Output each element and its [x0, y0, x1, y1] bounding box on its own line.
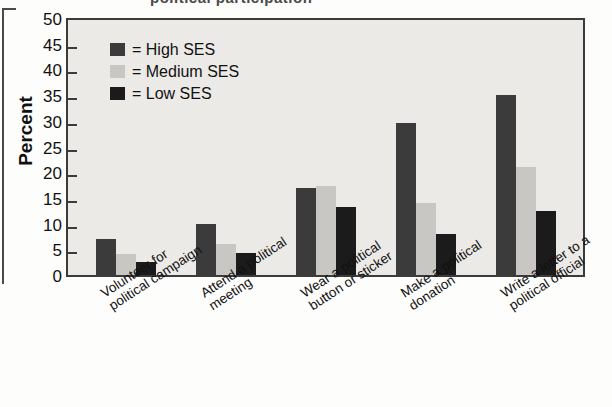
y-tick-mark	[68, 124, 77, 126]
page-border-top	[2, 8, 16, 10]
y-tick-mark	[68, 72, 77, 74]
legend-swatch-high	[110, 43, 125, 56]
legend-label-low: = Low SES	[132, 85, 212, 103]
y-tick-mark	[68, 98, 77, 100]
bar-medium-ses	[516, 167, 536, 275]
y-tick-label: 45	[28, 36, 62, 56]
bar-high-ses	[496, 95, 516, 275]
page-border-left	[2, 8, 4, 284]
y-tick-label: 15	[28, 190, 62, 210]
y-tick-mark	[68, 227, 77, 229]
legend-item-low: = Low SES	[110, 84, 239, 103]
legend-swatch-medium	[110, 65, 125, 78]
bar-chart-figure: political participation Percent 05101520…	[0, 0, 612, 407]
y-tick-label: 35	[28, 87, 62, 107]
legend-label-medium: = Medium SES	[132, 63, 239, 81]
y-tick-label: 20	[28, 164, 62, 184]
cropped-title-text: political participation	[150, 0, 312, 6]
legend-item-high: = High SES	[110, 40, 239, 59]
y-tick-label: 40	[28, 61, 62, 81]
y-tick-label: 50	[28, 10, 62, 30]
bar-high-ses	[96, 239, 116, 275]
legend-item-medium: = Medium SES	[110, 62, 239, 81]
bar-high-ses	[396, 123, 416, 275]
chart-legend: = High SES= Medium SES= Low SES	[110, 40, 239, 106]
y-tick-mark	[68, 252, 77, 254]
y-tick-mark	[68, 150, 77, 152]
y-tick-label: 10	[28, 216, 62, 236]
y-tick-mark	[68, 201, 77, 203]
y-tick-label: 5	[28, 241, 62, 261]
y-tick-label: 30	[28, 113, 62, 133]
legend-swatch-low	[110, 87, 125, 100]
cropped-title-fragment: political participation	[0, 0, 612, 7]
legend-label-high: = High SES	[132, 41, 215, 59]
y-tick-mark	[68, 47, 77, 49]
y-tick-label: 25	[28, 139, 62, 159]
y-tick-label: 0	[28, 267, 62, 287]
y-tick-mark	[68, 175, 77, 177]
y-axis-tick-labels: 05101520253035404550	[22, 18, 62, 277]
bar-medium-ses	[316, 186, 336, 275]
bar-high-ses	[296, 188, 316, 275]
